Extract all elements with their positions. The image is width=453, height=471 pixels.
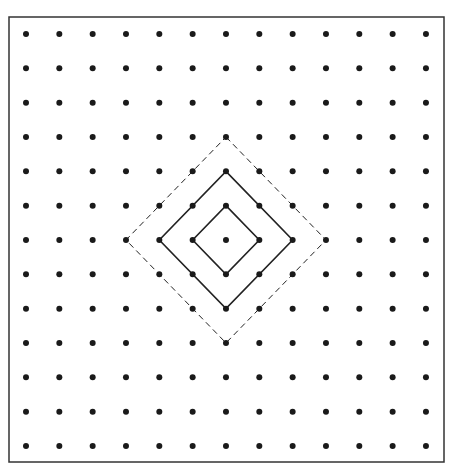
grid-dot xyxy=(256,340,262,346)
grid-dot xyxy=(323,31,329,37)
grid-dot xyxy=(123,65,129,71)
grid-dot xyxy=(323,100,329,106)
grid-dot xyxy=(190,409,196,415)
grid-dot xyxy=(190,306,196,312)
grid-dot xyxy=(290,168,296,174)
grid-dot xyxy=(56,65,62,71)
grid-dot xyxy=(290,271,296,277)
grid-dot xyxy=(323,65,329,71)
grid-dot xyxy=(390,374,396,380)
grid-dot xyxy=(256,374,262,380)
dot-grid xyxy=(23,31,429,449)
grid-dot xyxy=(123,271,129,277)
grid-dot xyxy=(223,374,229,380)
grid-dot xyxy=(323,306,329,312)
grid-dot xyxy=(356,443,362,449)
grid-dot xyxy=(90,100,96,106)
grid-dot xyxy=(156,306,162,312)
grid-dot xyxy=(423,134,429,140)
grid-dot xyxy=(290,31,296,37)
grid-dot xyxy=(423,237,429,243)
grid-dot xyxy=(356,168,362,174)
grid-dot xyxy=(356,65,362,71)
grid-dot xyxy=(156,100,162,106)
grid-dot xyxy=(390,134,396,140)
grid-dot xyxy=(156,31,162,37)
grid-dot xyxy=(323,340,329,346)
grid-dot xyxy=(423,31,429,37)
grid-dot xyxy=(390,168,396,174)
grid-dot xyxy=(223,168,229,174)
grid-dot xyxy=(356,237,362,243)
grid-dot xyxy=(90,237,96,243)
grid-dot xyxy=(323,443,329,449)
grid-dot xyxy=(223,340,229,346)
grid-dot xyxy=(356,100,362,106)
grid-dot xyxy=(290,237,296,243)
grid-dot xyxy=(56,31,62,37)
grid-dot xyxy=(223,409,229,415)
grid-dot xyxy=(123,443,129,449)
grid-dot xyxy=(56,203,62,209)
grid-dot xyxy=(256,306,262,312)
grid-dot xyxy=(123,237,129,243)
grid-dot xyxy=(390,306,396,312)
grid-dot xyxy=(123,340,129,346)
grid-dot xyxy=(90,203,96,209)
grid-dot xyxy=(223,443,229,449)
grid-dot xyxy=(290,134,296,140)
grid-dot xyxy=(223,271,229,277)
grid-dot xyxy=(256,65,262,71)
grid-dot xyxy=(190,65,196,71)
grid-dot xyxy=(423,409,429,415)
grid-dot xyxy=(323,203,329,209)
grid-dot xyxy=(256,271,262,277)
grid-dot xyxy=(256,409,262,415)
grid-dot xyxy=(90,134,96,140)
grid-dot xyxy=(56,306,62,312)
grid-dot xyxy=(23,340,29,346)
grid-dot xyxy=(223,203,229,209)
grid-dot xyxy=(190,271,196,277)
grid-dot xyxy=(423,168,429,174)
grid-dot xyxy=(23,237,29,243)
grid-dot xyxy=(256,100,262,106)
grid-dot xyxy=(156,134,162,140)
grid-dot xyxy=(190,134,196,140)
grid-dot xyxy=(256,31,262,37)
grid-dot xyxy=(90,65,96,71)
grid-dot xyxy=(156,409,162,415)
grid-dot xyxy=(90,409,96,415)
grid-dot xyxy=(156,237,162,243)
grid-dot xyxy=(90,306,96,312)
grid-dot xyxy=(190,443,196,449)
grid-dot xyxy=(390,203,396,209)
grid-dot xyxy=(56,340,62,346)
grid-dot xyxy=(390,65,396,71)
grid-dot xyxy=(223,237,229,243)
grid-dot xyxy=(56,134,62,140)
grid-dot xyxy=(90,374,96,380)
grid-dot xyxy=(290,340,296,346)
grid-dot xyxy=(156,271,162,277)
grid-dot xyxy=(90,340,96,346)
grid-dot xyxy=(123,31,129,37)
grid-dot xyxy=(56,374,62,380)
grid-dot xyxy=(356,203,362,209)
grid-dot xyxy=(123,100,129,106)
grid-dot xyxy=(223,65,229,71)
grid-dot xyxy=(356,340,362,346)
grid-dot xyxy=(223,306,229,312)
grid-dot xyxy=(90,168,96,174)
grid-dot xyxy=(123,409,129,415)
grid-dot xyxy=(323,168,329,174)
grid-dot xyxy=(156,203,162,209)
grid-dot xyxy=(290,203,296,209)
grid-dot xyxy=(156,168,162,174)
grid-dot xyxy=(290,374,296,380)
grid-dot xyxy=(423,306,429,312)
grid-dot xyxy=(423,271,429,277)
grid-dot xyxy=(123,203,129,209)
grid-dot xyxy=(156,340,162,346)
grid-dot xyxy=(23,306,29,312)
